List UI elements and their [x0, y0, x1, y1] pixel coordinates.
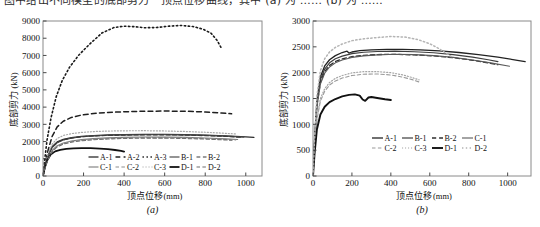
x-tick-label: 800	[462, 178, 476, 188]
y-tick-label: 7000	[22, 51, 41, 61]
y-tick-label: 1000	[292, 120, 311, 130]
legend-label-D-2: D-2	[475, 144, 487, 153]
x-axis-title: 顶点位移	[127, 190, 163, 201]
legend-label-B-1: B-1	[181, 153, 193, 162]
panel-label: (b)	[416, 204, 428, 216]
legend-label-B-1: B-1	[415, 134, 427, 143]
y-tick-label: 0	[306, 171, 311, 181]
x-tick-label: 600	[423, 178, 437, 188]
plot-frame	[43, 21, 262, 176]
x-tick-label: 0	[41, 178, 46, 188]
y-tick-label: 3000	[292, 16, 311, 26]
y-axis-unit: (kN)	[279, 72, 289, 88]
legend: A-1B-1B-2C-1C-2C-3D-1D-2	[372, 134, 487, 153]
x-tick-label: 200	[77, 178, 91, 188]
y-tick-label: 5000	[22, 85, 41, 95]
y-axis-title: 底部剪力	[8, 91, 19, 127]
y-tick-label: 2000	[22, 137, 41, 147]
panel-label: (a)	[147, 204, 159, 216]
legend-label-A-1: A-1	[100, 153, 112, 162]
legend-label-D-1: D-1	[181, 163, 193, 172]
legend-label-A-3: A-3	[154, 153, 166, 162]
x-tick-label: 400	[117, 178, 131, 188]
legend-label-A-1: A-1	[385, 134, 397, 143]
x-tick-label: 1000	[237, 178, 256, 188]
x-tick-label: 600	[158, 178, 172, 188]
x-axis-unit: (mm)	[433, 191, 452, 201]
top-caption-text: 图中给出不同模型的底部剪力－顶点位移曲线，其中 (a) 为 …… (b) 为 ……	[4, 0, 383, 7]
y-tick-label: 0	[36, 171, 41, 181]
y-tick-label: 500	[297, 145, 311, 155]
x-tick-label: 400	[384, 178, 398, 188]
y-tick-label: 1000	[22, 154, 41, 164]
x-tick-label: 1000	[499, 178, 517, 188]
curve-C-1	[313, 54, 510, 176]
y-tick-label: 1500	[292, 94, 311, 104]
curve-C-2	[313, 74, 419, 176]
legend-label-D-2: D-2	[208, 163, 220, 172]
curve-A-1	[313, 49, 525, 176]
y-tick-label: 8000	[22, 33, 41, 43]
legend-label-D-1: D-1	[445, 144, 457, 153]
y-tick-label: 2000	[292, 68, 311, 78]
y-tick-label: 6000	[22, 68, 41, 78]
chart-a: 0100020003000400050006000700080009000020…	[0, 11, 272, 227]
figure-page: 图中给出不同模型的底部剪力－顶点位移曲线，其中 (a) 为 …… (b) 为 ……	[0, 0, 540, 227]
x-tick-label: 200	[345, 178, 359, 188]
legend-label-C-1: C-1	[475, 134, 487, 143]
curve-D-2	[313, 37, 453, 177]
figure-panel-a: 0100020003000400050006000700080009000020…	[0, 11, 272, 227]
legend-label-A-2: A-2	[127, 153, 139, 162]
legend-label-C-1: C-1	[100, 163, 112, 172]
curve-B-1	[313, 51, 498, 176]
curve-D-1	[313, 94, 391, 176]
legend-label-C-2: C-2	[385, 144, 397, 153]
x-axis-title: 顶点位移	[396, 190, 432, 201]
y-tick-label: 9000	[22, 16, 41, 26]
y-axis-unit: (kN)	[9, 72, 19, 88]
legend-label-C-3: C-3	[154, 163, 166, 172]
x-tick-label: 800	[198, 178, 212, 188]
x-axis-unit: (mm)	[164, 191, 183, 201]
top-caption-strip: 图中给出不同模型的底部剪力－顶点位移曲线，其中 (a) 为 …… (b) 为 ……	[0, 0, 540, 11]
figure-panel-b: 0500100015002000250030000200400600800100…	[272, 11, 540, 227]
legend-label-B-2: B-2	[445, 134, 457, 143]
legend-label-C-2: C-2	[127, 163, 139, 172]
legend-label-B-2: B-2	[208, 153, 220, 162]
curve-B-2	[313, 54, 498, 176]
y-axis-title: 底部剪力	[278, 91, 289, 127]
y-tick-label: 3000	[22, 120, 41, 130]
chart-b: 0500100015002000250030000200400600800100…	[272, 11, 540, 227]
curve-C-3	[313, 72, 419, 176]
legend: A-1A-2A-3B-1B-2C-1C-2C-3D-1D-2	[89, 153, 221, 172]
legend-label-C-3: C-3	[415, 144, 427, 153]
y-tick-label: 2500	[292, 42, 311, 52]
y-tick-label: 4000	[22, 102, 41, 112]
x-tick-label: 0	[311, 178, 316, 188]
